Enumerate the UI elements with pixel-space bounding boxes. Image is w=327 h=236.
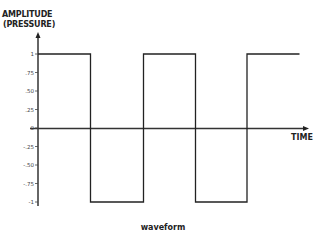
chart-caption: waveform	[141, 223, 186, 232]
y-tick-label: 0	[31, 125, 35, 131]
y-tick-label: -1	[29, 199, 34, 205]
y-axis-label-line2: (PRESSURE)	[3, 20, 55, 29]
y-axis-label-line1: AMPLITUDE	[2, 10, 52, 19]
y-ticks: 1.75.50.250-.25-.50-.75-1	[23, 51, 38, 205]
y-tick-label: -.25	[23, 144, 34, 150]
y-tick-label: -.75	[23, 181, 34, 187]
y-tick-label: -.50	[23, 162, 34, 168]
y-axis-arrow-icon	[36, 32, 41, 38]
y-tick-label: .50	[25, 88, 34, 94]
waveform-chart: AMPLITUDE (PRESSURE) TIME 1.75.50.250-.2…	[0, 0, 327, 236]
y-tick-label: .75	[25, 70, 34, 76]
y-tick-label: 1	[31, 51, 35, 57]
x-axis-label: TIME	[291, 133, 313, 142]
y-tick-label: .25	[25, 107, 34, 113]
x-axis-arrow-icon	[303, 126, 309, 131]
